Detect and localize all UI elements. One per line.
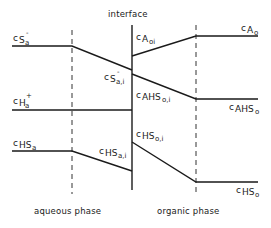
- svg-text:c: c: [241, 23, 246, 33]
- svg-text:c: c: [104, 72, 109, 82]
- label-c-ahs-o: c AHS o: [229, 102, 259, 116]
- label-c-h-a: c H + a: [13, 92, 32, 110]
- svg-text:A: A: [247, 25, 254, 35]
- svg-text:HS: HS: [105, 148, 118, 158]
- label-c-hs-a: c HS a: [13, 138, 36, 152]
- svg-text:oi: oi: [149, 38, 155, 46]
- organic-phase-label: organic phase: [157, 206, 220, 216]
- svg-text:A: A: [142, 34, 149, 44]
- svg-text:a,i: a,i: [118, 152, 127, 160]
- svg-text:c: c: [236, 185, 241, 195]
- svg-text:a: a: [32, 144, 36, 152]
- svg-text:HS: HS: [19, 140, 32, 150]
- label-c-a-o: c A o: [241, 23, 258, 37]
- two-film-concentration-diagram: interface c S - a c S - a,i c H + a c HS…: [0, 0, 271, 228]
- label-c-s-a: c S - a: [13, 29, 29, 47]
- svg-text:AHS: AHS: [142, 92, 161, 102]
- svg-text:c: c: [229, 102, 234, 112]
- label-c-hs-o: c HS o: [236, 185, 259, 199]
- svg-text:HS: HS: [242, 187, 255, 197]
- svg-text:o,i: o,i: [155, 135, 164, 143]
- svg-text:+: +: [26, 92, 32, 100]
- svg-text:-: -: [26, 29, 29, 37]
- svg-text:c: c: [13, 138, 18, 148]
- svg-text:c: c: [13, 33, 18, 43]
- svg-text:c: c: [136, 129, 141, 139]
- svg-text:c: c: [99, 146, 104, 156]
- svg-text:c: c: [13, 96, 18, 106]
- svg-text:c: c: [136, 90, 141, 100]
- label-c-hs-o-i: c HS o,i: [136, 129, 164, 143]
- label-c-hs-a-i: c HS a,i: [99, 146, 127, 160]
- svg-text:-: -: [117, 68, 120, 76]
- svg-text:o: o: [255, 191, 259, 199]
- svg-text:a,i: a,i: [116, 78, 125, 86]
- profile-hs-organic: [132, 142, 258, 182]
- svg-text:o: o: [255, 108, 259, 116]
- label-c-a-o-i: c A oi: [136, 32, 155, 46]
- svg-text:a: a: [25, 102, 29, 110]
- aqueous-phase-label: aqueous phase: [34, 206, 101, 216]
- label-c-ahs-o-i: c AHS o,i: [136, 90, 171, 104]
- svg-text:c: c: [136, 32, 141, 42]
- svg-text:HS: HS: [142, 131, 155, 141]
- svg-text:AHS: AHS: [235, 104, 254, 114]
- svg-text:o,i: o,i: [162, 96, 171, 104]
- svg-text:o: o: [254, 29, 258, 37]
- interface-label: interface: [108, 9, 148, 19]
- label-c-s-a-i: c S - a,i: [104, 68, 125, 86]
- svg-text:a: a: [25, 39, 29, 47]
